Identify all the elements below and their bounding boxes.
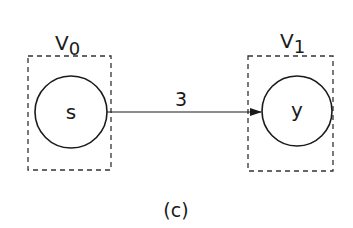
node-y-label: y <box>291 98 303 122</box>
figure-caption: (c) <box>163 199 188 221</box>
edge-weight-label: 3 <box>175 88 187 110</box>
node-s-label: s <box>66 100 76 124</box>
group-v0-subscript: 0 <box>69 38 80 59</box>
group-v1-label: V1 <box>280 29 305 57</box>
node-s: s <box>35 76 107 148</box>
node-y: y <box>262 76 332 146</box>
group-v1-subscript: 1 <box>294 36 305 57</box>
edge-s-y: 3 <box>107 88 261 112</box>
diagram-canvas: V0 V1 3 s y (c) <box>0 0 353 228</box>
group-v0-label: V0 <box>55 31 80 59</box>
